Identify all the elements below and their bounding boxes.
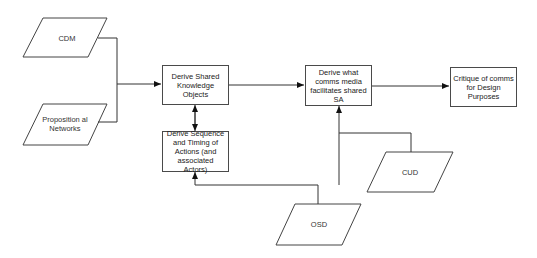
prop-networks-label: Proposition al Networks	[40, 108, 90, 140]
process-derive-comms-media: Derive what comms media facilitates shar…	[305, 65, 372, 106]
process-critique-comms: Critique of comms for Design Purposes	[450, 67, 517, 107]
edge-cud-comms	[339, 133, 411, 152]
osd-label: OSD	[286, 208, 352, 240]
edge-osd	[195, 185, 318, 204]
process-derive-sequence: Derive Sequence and Timing of Actions (a…	[162, 131, 229, 172]
process-derive-shared-knowledge: Derive Shared Knowledge Objects	[162, 65, 229, 105]
cdm-label: CDM	[35, 22, 99, 54]
cud-label: CUD	[377, 156, 443, 188]
